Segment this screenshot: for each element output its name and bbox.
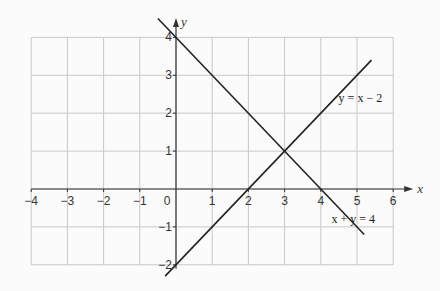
x-tick-label: −2 <box>97 194 111 208</box>
coordinate-graph: xy −4−3−2−10123456−2−11234 y = x − 2x + … <box>0 0 440 291</box>
y-axis-arrow-icon <box>173 18 179 27</box>
y-tick-label: 1 <box>165 144 172 158</box>
series-line <box>158 18 364 234</box>
grid-lines <box>31 37 393 264</box>
x-tick-label: −1 <box>133 194 147 208</box>
y-axis-label: y <box>179 14 187 29</box>
y-tick-label: 3 <box>165 68 172 82</box>
line-equation-label: x + y = 4 <box>331 212 375 226</box>
x-tick-label: −3 <box>61 194 75 208</box>
y-tick-label: −1 <box>158 220 172 234</box>
x-axis-label: x <box>416 181 423 196</box>
x-tick-label: 4 <box>317 194 324 208</box>
x-tick-label: 2 <box>245 194 252 208</box>
x-tick-label: 0 <box>164 194 171 208</box>
x-tick-label: −4 <box>24 194 38 208</box>
x-tick-label: 6 <box>390 194 397 208</box>
x-tick-label: 5 <box>354 194 361 208</box>
x-tick-label: 1 <box>209 194 216 208</box>
y-tick-label: 2 <box>165 106 172 120</box>
plot-lines <box>158 18 372 276</box>
axes: xy <box>31 14 423 269</box>
x-axis-arrow-icon <box>404 186 413 192</box>
x-tick-label: 3 <box>281 194 288 208</box>
line-equation-label: y = x − 2 <box>339 91 383 105</box>
